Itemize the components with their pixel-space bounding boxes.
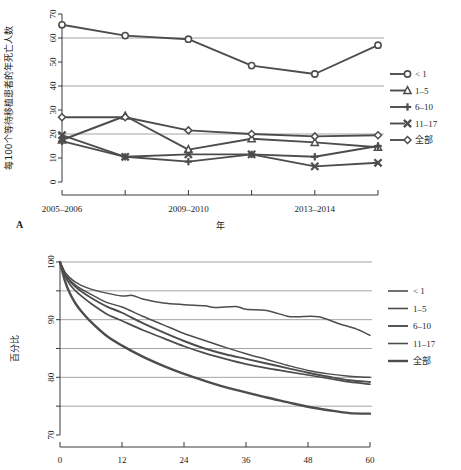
panel-b-y-axis: 708090100 xyxy=(46,255,60,440)
panel-a-legend-marker-circle xyxy=(404,71,410,77)
panel-a-xtick-label: 2005–2006 xyxy=(42,204,83,214)
panel-b-series-5 xyxy=(60,262,370,414)
panel-a-x-axis-title: 年 xyxy=(216,220,225,231)
panel-b-x-axis: 01224364860 xyxy=(58,442,375,465)
panel-a-series-1 xyxy=(59,22,381,77)
panel-a-legend-marker-diamond xyxy=(404,137,411,144)
panel-b-chart: 708090100百分比01224364860< 11–56–1011–17全部 xyxy=(0,235,461,470)
panel-a-svg: 010203040506070每100个等待移植患者的年死亡人数2005–200… xyxy=(0,0,461,235)
panel-a-series-4 xyxy=(58,132,381,170)
panel-b-legend-label: < 1 xyxy=(413,286,425,296)
panel-a-y-axis: 010203040506070 xyxy=(48,9,62,184)
panel-a-xtick-label: 2013–2014 xyxy=(295,204,336,214)
panel-a-legend: < 11–56–1011–17全部 xyxy=(390,69,438,145)
panel-a-marker xyxy=(122,33,128,39)
panel-a-marker xyxy=(248,131,255,138)
panel-a-ytick-label: 70 xyxy=(48,9,58,19)
panel-a-gridlines xyxy=(61,38,384,134)
panel-a-legend-label: 11–17 xyxy=(415,119,438,129)
panel-a-xtick-label: 2009–2010 xyxy=(168,204,209,214)
panel-b-xtick-label: 24 xyxy=(180,455,190,465)
panel-a-legend-marker-triangle xyxy=(404,87,411,94)
panel-b-legend-label: 1–5 xyxy=(413,304,427,314)
panel-a-marker xyxy=(185,158,192,165)
panel-a-legend-label: 1–5 xyxy=(415,86,429,96)
panel-a-legend-label: 6–10 xyxy=(415,102,434,112)
panel-a-ytick-label: 20 xyxy=(48,129,58,139)
panel-a-ytick-label: 0 xyxy=(48,179,58,184)
panel-a-ytick-label: 50 xyxy=(48,57,58,67)
panel-a-marker xyxy=(312,71,318,77)
panel-a-legend-marker-plus xyxy=(404,103,411,110)
panel-a-marker xyxy=(375,42,381,48)
panel-b-xtick-label: 12 xyxy=(118,455,127,465)
panel-a-ytick-label: 60 xyxy=(48,33,58,43)
panel-b-series-4 xyxy=(60,262,370,384)
panel-a-marker xyxy=(249,63,255,69)
panel-b-svg: 708090100百分比01224364860< 11–56–1011–17全部 xyxy=(0,235,461,470)
panel-a-marker xyxy=(59,22,65,28)
panel-b-xtick-label: 48 xyxy=(304,455,314,465)
panel-a-chart: 010203040506070每100个等待移植患者的年死亡人数2005–200… xyxy=(0,0,461,235)
panel-a-series-5 xyxy=(59,114,382,140)
panel-b-xtick-label: 60 xyxy=(366,455,376,465)
panel-b-xtick-label: 36 xyxy=(242,455,252,465)
panel-a-legend-label: 全部 xyxy=(415,134,433,145)
panel-a-marker xyxy=(185,36,191,42)
panel-a-marker xyxy=(311,153,318,160)
panel-b-legend-label: 11–17 xyxy=(413,339,436,349)
panel-b-legend-label: 6–10 xyxy=(413,321,432,331)
panel-a-ytick-label: 40 xyxy=(48,81,58,91)
panel-a-ytick-label: 30 xyxy=(48,105,58,115)
panel-a-marker xyxy=(375,132,382,139)
panel-b-ytick-label: 70 xyxy=(46,430,56,440)
panel-b-series-1 xyxy=(60,262,370,335)
panel-a-y-axis-title: 每100个等待移植患者的年死亡人数 xyxy=(3,26,14,169)
panel-b-legend: < 11–56–1011–17全部 xyxy=(388,286,436,366)
panel-a-x-axis: 2005–20062009–20102013–2014 xyxy=(42,190,378,214)
panel-b-y-axis-title: 百分比 xyxy=(9,335,20,362)
panel-a-label: A xyxy=(16,219,24,230)
panel-a-legend-label: < 1 xyxy=(415,69,427,79)
panel-b-ytick-label: 90 xyxy=(46,315,56,325)
panel-b-series-3 xyxy=(60,262,370,382)
panel-a-marker xyxy=(185,127,192,134)
panel-b-ytick-label: 100 xyxy=(46,255,56,269)
panel-a-marker xyxy=(59,114,66,121)
panel-b-ytick-label: 80 xyxy=(46,372,56,382)
panel-b-legend-label: 全部 xyxy=(413,355,431,366)
panel-a-ytick-label: 10 xyxy=(48,153,58,163)
panel-b-xtick-label: 0 xyxy=(58,455,63,465)
